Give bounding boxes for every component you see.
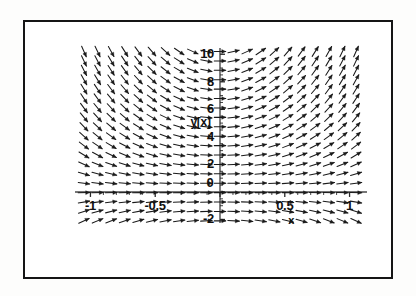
y-tick-label-10: 10: [188, 47, 214, 60]
y-tick-label-8: 8: [188, 75, 214, 88]
x-tick-label-0point5: 0.5: [268, 199, 302, 212]
figure-frame: 10 8 6 4 2 -2 -1 -0.5 0 0.5 1 y[x] x: [23, 20, 393, 279]
y-tick-label-neg-2: -2: [188, 212, 214, 225]
axes-group: [75, 48, 367, 223]
x-tick-label-1: 1: [333, 199, 367, 212]
x-axis-title: x: [288, 215, 294, 226]
page-canvas: 10 8 6 4 2 -2 -1 -0.5 0 0.5 1 y[x] x: [0, 0, 416, 296]
x-tick-label-neg-0point5: -0.5: [138, 199, 172, 212]
y-tick-label-6: 6: [188, 102, 214, 115]
y-axis-title: y[x]: [190, 116, 210, 128]
direction-field-plot: 10 8 6 4 2 -2 -1 -0.5 0 0.5 1 y[x] x: [25, 22, 391, 277]
x-tick-label-0: 0: [201, 176, 219, 189]
x-tick-label-neg-1: -1: [73, 199, 107, 212]
y-tick-label-4: 4: [188, 130, 214, 143]
y-tick-label-2: 2: [188, 157, 214, 170]
